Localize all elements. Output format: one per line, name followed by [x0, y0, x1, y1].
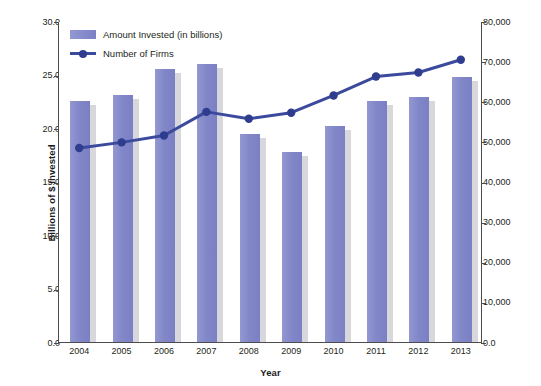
x-axis-tick-label: 2006 — [143, 346, 185, 356]
y-axis-right-tick-label: 20,000 — [483, 258, 511, 267]
y-axis-right-tick-label: 40,000 — [483, 178, 511, 187]
y-axis-left-tick-mark — [54, 343, 59, 344]
y-axis-right-tick-label: 80,000 — [483, 18, 511, 27]
y-axis-right-tick-label: 70,000 — [483, 58, 511, 67]
y-axis-left-tick-mark — [54, 76, 59, 77]
y-axis-left-tick-mark — [54, 183, 59, 184]
legend-line-marker-icon — [79, 50, 87, 58]
y-axis-right-ticks: 0.010,00020,00030,00040,00050,00060,0007… — [483, 0, 527, 386]
legend-label-amount-invested: Amount Invested (in billions) — [103, 29, 222, 40]
bar[interactable] — [409, 97, 429, 342]
bar[interactable] — [197, 64, 217, 342]
y-axis-right-tick-mark — [481, 22, 486, 23]
bar[interactable] — [70, 101, 90, 342]
chart-container: Billions of $ Invested Number of Small C… — [0, 0, 541, 386]
plot-area — [58, 22, 482, 343]
y-axis-right-tick-mark — [481, 303, 486, 304]
y-axis-right-tick-mark — [481, 223, 486, 224]
y-axis-right-tick-label: 60,000 — [483, 98, 511, 107]
y-axis-right-tick-mark — [481, 62, 486, 63]
bars-layer — [59, 22, 481, 342]
x-axis-tick-label: 2009 — [270, 346, 312, 356]
y-axis-right-tick-label: 10,000 — [483, 298, 511, 307]
x-axis-tick-label: 2010 — [312, 346, 354, 356]
y-axis-right-tick-label: 30,000 — [483, 218, 511, 227]
x-axis-tick-label: 2008 — [228, 346, 270, 356]
x-axis-ticks: 2004200520062007200820092010201120122013 — [58, 346, 482, 362]
bar[interactable] — [240, 134, 260, 342]
y-axis-left-tick-mark — [54, 22, 59, 23]
legend-line-swatch-icon — [70, 49, 96, 58]
y-axis-right-tick-mark — [481, 343, 486, 344]
x-axis-tick-label: 2005 — [100, 346, 142, 356]
y-axis-left-ticks: 0.05.010.015.020.025.030.0 — [20, 0, 60, 386]
y-axis-left-tick-mark — [54, 129, 59, 130]
bar[interactable] — [325, 126, 345, 342]
x-axis-tick-label: 2007 — [185, 346, 227, 356]
y-axis-right-tick-mark — [481, 263, 486, 264]
chart-legend: Amount Invested (in billions) Number of … — [70, 26, 222, 64]
legend-item-number-of-firms[interactable]: Number of Firms — [70, 45, 222, 62]
y-axis-left-tick-mark — [54, 290, 59, 291]
y-axis-right-tick-label: 50,000 — [483, 138, 511, 147]
y-axis-right-tick-mark — [481, 102, 486, 103]
legend-item-amount-invested[interactable]: Amount Invested (in billions) — [70, 26, 222, 43]
bar[interactable] — [113, 95, 133, 342]
bar[interactable] — [155, 69, 175, 342]
bar[interactable] — [282, 152, 302, 342]
bar[interactable] — [452, 77, 472, 342]
y-axis-right-tick-mark — [481, 183, 486, 184]
legend-bar-swatch-icon — [70, 30, 96, 39]
x-axis-title: Year — [0, 367, 541, 378]
x-axis-tick-label: 2004 — [58, 346, 100, 356]
y-axis-left-tick-mark — [54, 236, 59, 237]
legend-label-number-of-firms: Number of Firms — [103, 48, 174, 59]
x-axis-tick-label: 2013 — [440, 346, 482, 356]
y-axis-right-tick-mark — [481, 142, 486, 143]
x-axis-tick-label: 2012 — [397, 346, 439, 356]
bar[interactable] — [367, 101, 387, 342]
x-axis-tick-label: 2011 — [355, 346, 397, 356]
